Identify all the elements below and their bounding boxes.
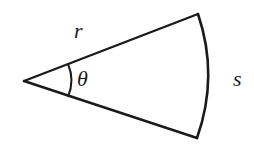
arc-length-label: s (233, 68, 242, 90)
angle-label: θ (77, 68, 88, 90)
sector-diagram: r θ s (0, 0, 254, 152)
radius-line-bottom (24, 81, 197, 138)
radius-line-top (24, 14, 198, 81)
radius-label: r (74, 20, 83, 42)
arc-s (197, 14, 208, 138)
angle-marker-arc (68, 64, 72, 97)
sector-figure (0, 0, 254, 152)
